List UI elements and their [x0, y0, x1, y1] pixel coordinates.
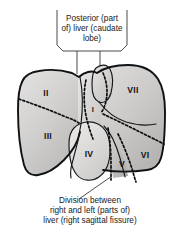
posterior-caudate-callout: Posterior (part of) liver (caudate lobe) — [57, 10, 127, 74]
segment-2-label: II — [43, 88, 48, 98]
segment-7-label: VII — [127, 85, 138, 95]
segment-4-label: IV — [85, 149, 94, 159]
liver-segment-diagram: Posterior (part of) liver (caudate lobe) — [0, 0, 181, 230]
segment-3-label: III — [44, 131, 52, 141]
segment-1-caudate-label: I — [92, 105, 94, 114]
segment-6-label: VI — [141, 150, 150, 160]
sagittal-fissure-callout-line-2: right and left (parts of) — [50, 206, 130, 215]
segment-5-label: V — [119, 159, 125, 169]
sagittal-fissure-callout-line-1: Division between — [59, 196, 121, 205]
posterior-caudate-callout-line-1: Posterior (part — [66, 14, 119, 23]
liver-illustration: II III I IV V VI VII — [18, 65, 165, 182]
sagittal-fissure-callout-line-3: liver (right sagittal fissure) — [43, 216, 137, 225]
posterior-caudate-callout-line-3: lobe) — [83, 34, 101, 43]
sagittal-fissure-callout: Division between right and left (parts o… — [43, 176, 137, 225]
posterior-caudate-callout-line-2: of) liver (caudate — [62, 24, 123, 33]
